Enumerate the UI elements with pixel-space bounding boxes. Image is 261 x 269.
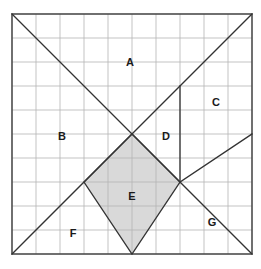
region-label-d: D	[162, 131, 170, 142]
geometry-canvas	[0, 0, 261, 269]
region-label-a: A	[126, 57, 134, 68]
region-label-c: C	[212, 97, 220, 108]
region-label-f: F	[70, 228, 77, 239]
region-label-b: B	[58, 131, 66, 142]
region-label-e: E	[128, 191, 135, 202]
region-label-g: G	[208, 217, 217, 228]
geometry-figure: A B C D E F G	[0, 0, 261, 269]
